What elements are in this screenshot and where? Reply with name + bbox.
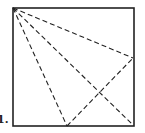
dashed-segment-a-b	[13, 8, 133, 58]
geometry-diagram	[0, 0, 145, 133]
dashed-segment-a-d	[13, 8, 67, 126]
dashed-segment-a-c	[13, 8, 133, 125]
